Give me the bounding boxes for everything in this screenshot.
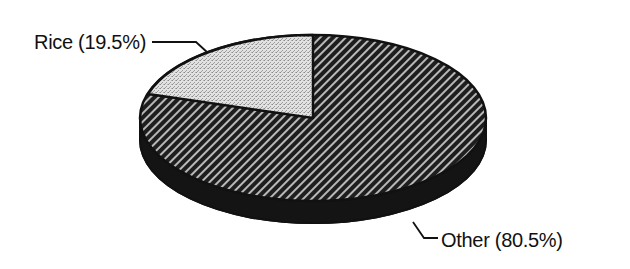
slice-label-other: Other (80.5%) [441,230,563,250]
leader-line-other [413,222,438,238]
slice-label-rice: Rice (19.5%) [34,32,146,52]
leader-line-rice [152,42,208,53]
